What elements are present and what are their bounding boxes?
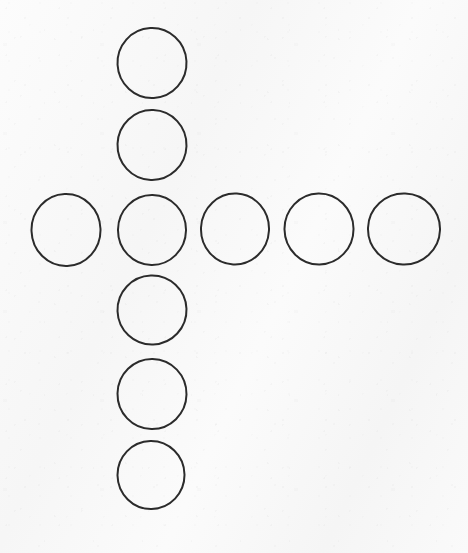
circle-center-intersection [117, 194, 186, 265]
circle-column-lower [116, 274, 187, 345]
circles-cross-figure [0, 0, 468, 553]
diagram-canvas: Circles arranged in a cross [0, 0, 468, 553]
circle-row-middle-right [199, 192, 271, 266]
circle-column-lower-2 [117, 358, 187, 429]
circle-column-upper [116, 109, 187, 181]
circle-column-bottom [117, 440, 185, 509]
circle-row-far-left [30, 193, 101, 267]
circle-row-far-right [367, 192, 441, 265]
circle-row-right [284, 193, 354, 265]
circle-column-top [116, 26, 189, 100]
